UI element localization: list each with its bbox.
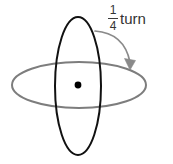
fraction-numerator: 1 <box>109 4 118 17</box>
center-dot <box>75 82 82 89</box>
quarter-turn-label: 1 4 turn <box>108 4 146 32</box>
diagram-canvas <box>0 0 173 164</box>
rotation-arrow-shaft <box>95 31 130 62</box>
fraction-one-quarter: 1 4 <box>108 4 118 32</box>
turn-word-label: turn <box>120 11 146 26</box>
rotation-diagram-figure: 1 4 turn <box>0 0 173 164</box>
fraction-denominator: 4 <box>109 20 118 33</box>
